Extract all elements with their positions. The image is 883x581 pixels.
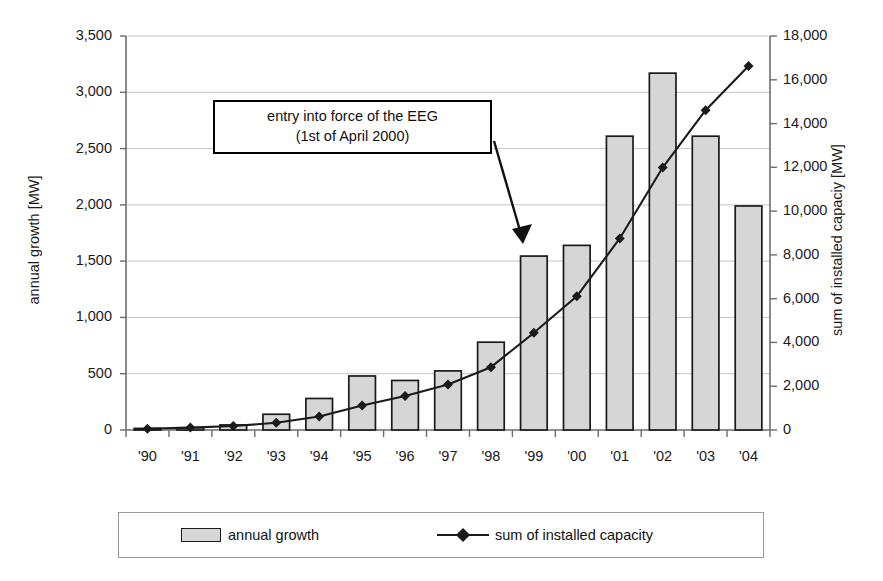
annotation-callout: entry into force of the EEG (1st of Apri… — [213, 100, 492, 154]
bar — [478, 342, 505, 430]
left-tick-marks — [120, 36, 126, 430]
bar — [392, 380, 419, 430]
left-tick-label: 500 — [48, 366, 112, 381]
right-tick-label: 12,000 — [783, 159, 853, 174]
right-tick-label: 4,000 — [783, 334, 853, 349]
annotation-line-2: (1st of April 2000) — [296, 127, 410, 147]
right-tick-label: 2,000 — [783, 378, 853, 393]
right-tick-marks — [770, 36, 777, 430]
x-tick-label: '94 — [298, 448, 340, 464]
legend-bar-swatch-icon — [181, 528, 221, 542]
x-tick-label: '99 — [513, 448, 555, 464]
right-tick-label: 0 — [783, 422, 853, 437]
bar — [606, 136, 633, 430]
x-tick-label: '96 — [384, 448, 426, 464]
right-tick-label: 14,000 — [783, 116, 853, 131]
legend-item-annual-growth: annual growth — [181, 527, 319, 543]
left-tick-label: 0 — [48, 422, 112, 437]
x-tick-label: '98 — [470, 448, 512, 464]
right-tick-label: 6,000 — [783, 291, 853, 306]
left-tick-label: 1,000 — [48, 309, 112, 324]
bar — [521, 256, 548, 430]
right-tick-label: 10,000 — [783, 203, 853, 218]
legend-label-annual-growth: annual growth — [228, 527, 319, 543]
legend-line-diamond-icon — [437, 528, 489, 542]
legend-label-installed-capacity: sum of installed capacity — [495, 527, 653, 543]
x-tick-label: '02 — [642, 448, 684, 464]
x-tick-label: '97 — [427, 448, 469, 464]
bar — [649, 73, 676, 430]
x-tick-label: '00 — [556, 448, 598, 464]
right-tick-label: 16,000 — [783, 72, 853, 87]
x-tick-label: '91 — [169, 448, 211, 464]
right-tick-label: 8,000 — [783, 247, 853, 262]
left-tick-label: 3,500 — [48, 28, 112, 43]
x-tick-label: '95 — [341, 448, 383, 464]
left-tick-label: 2,000 — [48, 197, 112, 212]
diamond-marker-icon — [142, 424, 152, 434]
chart-plot-area — [0, 0, 883, 581]
left-tick-label: 1,500 — [48, 253, 112, 268]
annotation-line-1: entry into force of the EEG — [267, 107, 438, 127]
left-tick-label: 2,500 — [48, 141, 112, 156]
left-axis-title: annual growth [MW] — [26, 140, 42, 340]
x-tick-label: '01 — [599, 448, 641, 464]
chart-figure: annual growth [MW] sum of installed capa… — [0, 0, 883, 581]
legend-item-installed-capacity: sum of installed capacity — [437, 527, 653, 543]
right-tick-label: 18,000 — [783, 28, 853, 43]
annotation-arrow-icon — [494, 141, 532, 244]
x-tick-label: '93 — [255, 448, 297, 464]
x-tick-label: '04 — [728, 448, 770, 464]
x-tick-marks — [126, 430, 770, 437]
x-tick-label: '90 — [126, 448, 168, 464]
x-tick-label: '92 — [212, 448, 254, 464]
bar — [735, 206, 762, 430]
x-tick-label: '03 — [685, 448, 727, 464]
chart-legend: annual growth sum of installed capacity — [118, 512, 764, 558]
bar — [563, 245, 590, 430]
left-tick-label: 3,000 — [48, 84, 112, 99]
bar — [692, 136, 719, 430]
diamond-marker-icon — [185, 423, 195, 433]
